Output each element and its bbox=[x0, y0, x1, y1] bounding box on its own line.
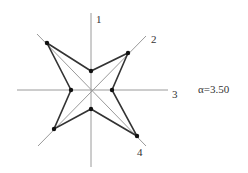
axis-label-4: 4 bbox=[137, 147, 143, 158]
alpha-parameter-label: α=3.50 bbox=[198, 84, 229, 95]
vertex-inner-top bbox=[89, 69, 93, 73]
vertex-outer-upper-left bbox=[45, 41, 49, 45]
vertex-inner-left bbox=[69, 88, 73, 92]
vertex-outer-lower-right bbox=[135, 134, 139, 138]
axis-label-2: 2 bbox=[151, 34, 157, 45]
axis-label-1: 1 bbox=[96, 14, 102, 25]
star-diagram: 1 2 3 4 α=3.50 bbox=[0, 0, 248, 173]
vertex-outer-lower-left bbox=[52, 127, 56, 131]
axis-label-3: 3 bbox=[172, 89, 178, 100]
vertex-outer-upper-right bbox=[126, 51, 130, 55]
vertex-inner-bottom bbox=[89, 107, 93, 111]
vertex-inner-right bbox=[110, 88, 114, 92]
